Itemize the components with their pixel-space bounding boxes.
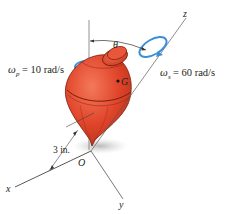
precession-omega-symbol: ω	[8, 63, 16, 75]
origin-label: O	[78, 157, 85, 168]
spin-value: = 60 rad/s	[173, 67, 215, 78]
spinning-top-diagram: ω p = 10 rad/s ω s = 60 rad/s θ G O 3 in…	[0, 0, 242, 214]
theta-label: θ	[113, 39, 118, 50]
center-of-mass-point	[116, 79, 119, 82]
spin-omega-symbol: ω	[160, 66, 168, 78]
precession-value: = 10 rad/s	[22, 64, 64, 75]
z-axis-label: z	[182, 8, 187, 19]
spinning-top	[65, 44, 131, 146]
precession-subscript: p	[15, 70, 20, 78]
distance-label: 3 in.	[53, 145, 70, 155]
spin-subscript: s	[168, 73, 171, 81]
x-axis-label: x	[5, 183, 11, 194]
spin-rotation-icon	[136, 33, 169, 61]
center-of-mass-label: G	[121, 76, 128, 87]
y-axis-line	[91, 151, 123, 199]
ground-shadow	[72, 138, 128, 154]
y-axis-label: y	[118, 199, 124, 210]
